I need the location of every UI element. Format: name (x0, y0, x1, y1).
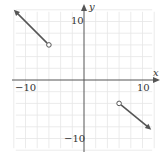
piecewise-graph: x y −10 10 10 −10 (0, 0, 164, 158)
open-circle-icon (47, 43, 52, 48)
right-ray (121, 105, 148, 127)
y-axis-arrow-icon (81, 4, 87, 11)
y-tick-neg10: −10 (64, 133, 85, 144)
open-circle-icon (117, 101, 122, 106)
x-tick-neg10: −10 (15, 82, 36, 93)
x-tick-pos10: 10 (137, 82, 150, 93)
y-axis-label: y (88, 1, 95, 12)
y-tick-pos10: 10 (71, 15, 84, 26)
x-axis-label: x (153, 67, 159, 78)
left-ray (17, 13, 48, 44)
